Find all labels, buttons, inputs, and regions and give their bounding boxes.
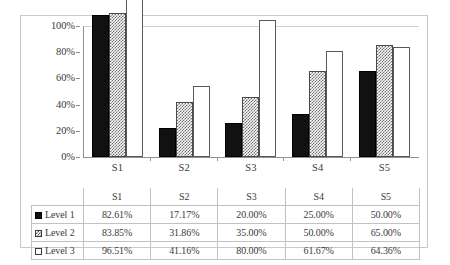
y-tick-mark bbox=[76, 52, 80, 53]
black-square-icon bbox=[35, 212, 42, 219]
bar-level2-s5 bbox=[376, 45, 393, 157]
plot-wrapper: 100% 80% 60% 40% 20% 0% bbox=[31, 26, 419, 171]
y-tick-label: 0% bbox=[33, 152, 75, 162]
legend-label-level1: Level 1 bbox=[45, 209, 75, 220]
table-corner-cell bbox=[32, 188, 84, 206]
bar-level2-s1 bbox=[109, 13, 126, 157]
cell-level2-s2: 31.86% bbox=[151, 224, 218, 242]
y-tick-label: 80% bbox=[33, 47, 75, 57]
table-header-s3: S3 bbox=[218, 188, 285, 206]
cell-level3-s5: 64.36% bbox=[352, 242, 419, 260]
bar-level1-s5 bbox=[359, 71, 376, 157]
cell-level2-s5: 65.00% bbox=[352, 224, 419, 242]
cell-level3-s4: 61.67% bbox=[285, 242, 352, 260]
bar-level3-s3 bbox=[259, 20, 276, 157]
bar-group-s3 bbox=[218, 26, 285, 157]
table-header-s5: S5 bbox=[352, 188, 419, 206]
bar-level3-s2 bbox=[193, 86, 210, 157]
y-axis-tick-labels: 100% 80% 60% 40% 20% 0% bbox=[31, 26, 75, 157]
y-tick-mark bbox=[76, 26, 80, 27]
cell-level2-s4: 50.00% bbox=[285, 224, 352, 242]
legend-level2: Level 2 bbox=[32, 224, 84, 242]
cell-level3-s2: 41.16% bbox=[151, 242, 218, 260]
y-tick-label: 20% bbox=[33, 126, 75, 136]
cell-level2-s1: 83.85% bbox=[84, 224, 151, 242]
white-square-icon bbox=[35, 248, 42, 255]
table-header-s1: S1 bbox=[84, 188, 151, 206]
bar-group-s5 bbox=[351, 26, 418, 157]
cell-level1-s3: 20.00% bbox=[218, 206, 285, 224]
table-header-s2: S2 bbox=[151, 188, 218, 206]
x-axis-line bbox=[83, 157, 419, 158]
x-axis-category-labels: S1 S2 S3 S4 S5 bbox=[84, 160, 418, 176]
table-row: Level 3 96.51% 41.16% 80.00% 61.67% 64.3… bbox=[32, 242, 420, 260]
table-header-s4: S4 bbox=[285, 188, 352, 206]
cell-level1-s4: 25.00% bbox=[285, 206, 352, 224]
bar-groups bbox=[84, 26, 418, 157]
bar-level3-s5 bbox=[393, 47, 410, 157]
table-row: Level 1 82.61% 17.17% 20.00% 25.00% 50.0… bbox=[32, 206, 420, 224]
cell-level1-s2: 17.17% bbox=[151, 206, 218, 224]
bar-level3-s4 bbox=[326, 51, 343, 157]
cell-level1-s5: 50.00% bbox=[352, 206, 419, 224]
y-tick-label: 40% bbox=[33, 100, 75, 110]
cell-level2-s3: 35.00% bbox=[218, 224, 285, 242]
y-tick-mark bbox=[76, 78, 80, 79]
table-row: Level 2 83.85% 31.86% 35.00% 50.00% 65.0… bbox=[32, 224, 420, 242]
chart-figure-frame: 100% 80% 60% 40% 20% 0% bbox=[20, 15, 428, 248]
bar-level1-s4 bbox=[292, 114, 309, 157]
chart-data-table: S1 S2 S3 S4 S5 Level 1 82.61% 17.17% 20.… bbox=[31, 188, 420, 260]
y-tick-mark bbox=[76, 157, 80, 158]
legend-label-level3: Level 3 bbox=[45, 245, 75, 256]
legend-label-level2: Level 2 bbox=[45, 227, 75, 238]
bar-group-s1 bbox=[84, 26, 151, 157]
y-tick-label: 100% bbox=[33, 21, 75, 31]
y-tick-mark bbox=[76, 105, 80, 106]
bar-level2-s3 bbox=[242, 97, 259, 157]
bar-level2-s2 bbox=[176, 102, 193, 157]
bar-level2-s4 bbox=[309, 71, 326, 157]
bar-group-s4 bbox=[284, 26, 351, 157]
bar-level3-s1 bbox=[126, 0, 143, 157]
x-label-s1: S1 bbox=[84, 160, 151, 176]
x-label-s2: S2 bbox=[151, 160, 218, 176]
checkered-square-icon bbox=[35, 230, 42, 237]
legend-level1: Level 1 bbox=[32, 206, 84, 224]
bar-level1-s1 bbox=[92, 15, 109, 157]
x-label-s4: S4 bbox=[284, 160, 351, 176]
bar-group-s2 bbox=[151, 26, 218, 157]
table-header-row: S1 S2 S3 S4 S5 bbox=[32, 188, 420, 206]
cell-level3-s1: 96.51% bbox=[84, 242, 151, 260]
bar-level1-s2 bbox=[159, 128, 176, 157]
y-tick-label: 60% bbox=[33, 73, 75, 83]
x-label-s3: S3 bbox=[218, 160, 285, 176]
bar-level1-s3 bbox=[225, 123, 242, 157]
y-tick-mark bbox=[76, 131, 80, 132]
cell-level3-s3: 80.00% bbox=[218, 242, 285, 260]
cell-level1-s1: 82.61% bbox=[84, 206, 151, 224]
legend-level3: Level 3 bbox=[32, 242, 84, 260]
x-label-s5: S5 bbox=[351, 160, 418, 176]
